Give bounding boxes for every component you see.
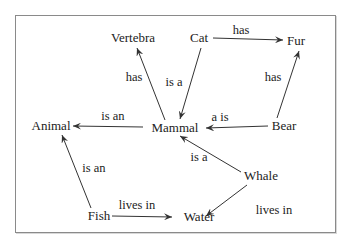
edge-label-fish-water: lives in: [119, 198, 156, 212]
node-fish: Fish: [88, 208, 111, 223]
node-cat: Cat: [190, 30, 208, 45]
edge-label-whale-mammal: is a: [190, 150, 207, 164]
node-whale: Whale: [244, 168, 278, 183]
edge-label-cat-fur: has: [233, 23, 250, 37]
edge-cat-isa-mammal: [180, 48, 201, 119]
node-mammal: Mammal: [152, 120, 199, 135]
edge-bear-has-fur: [277, 51, 299, 118]
edge-label-mammal-vertebra: has: [126, 70, 143, 84]
edge-mammal-isan-animal: [73, 126, 143, 127]
node-vertebra: Vertebra: [111, 30, 155, 45]
node-bear: Bear: [272, 118, 297, 133]
edge-mammal-has-vertebra: [137, 48, 165, 120]
diagram-canvas: Vertebra Cat Fur Animal Mammal Bear Whal…: [0, 0, 349, 247]
edge-bear-ais-mammal: [206, 126, 268, 128]
edge-fish-livesin-water: [112, 216, 172, 217]
edge-label-bear-mammal: a is: [211, 110, 228, 124]
edge-label-mammal-animal: is an: [101, 109, 125, 123]
node-fur: Fur: [287, 33, 306, 48]
semantic-network: Vertebra Cat Fur Animal Mammal Bear Whal…: [0, 0, 349, 247]
edge-cat-has-fur: [213, 38, 283, 40]
edge-whale-isa-mammal: [180, 136, 241, 172]
node-water: Water: [184, 209, 215, 224]
edge-label-whale-water: lives in: [256, 203, 293, 217]
edge-label-bear-fur: has: [265, 70, 282, 84]
edge-label-fish-animal: is an: [82, 161, 106, 175]
node-animal: Animal: [32, 118, 71, 133]
edge-label-cat-mammal: is a: [165, 75, 182, 89]
